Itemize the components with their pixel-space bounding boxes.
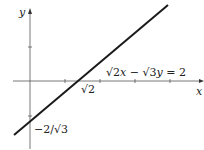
graph-figure: y x √2x − √3y = 2 √2 −2/√3 [0,0,204,150]
y-axis-arrow-icon [28,8,32,14]
y-axis-label: y [19,7,25,18]
equation-label: √2x − √3y = 2 [106,67,186,78]
y-intercept-label: −2/√3 [34,124,68,135]
x-axis-arrow-icon [199,79,204,83]
y-axis [28,8,32,149]
x-axis-label: x [196,86,202,97]
x-intercept-label: √2 [81,84,95,95]
x-axis [13,79,204,83]
